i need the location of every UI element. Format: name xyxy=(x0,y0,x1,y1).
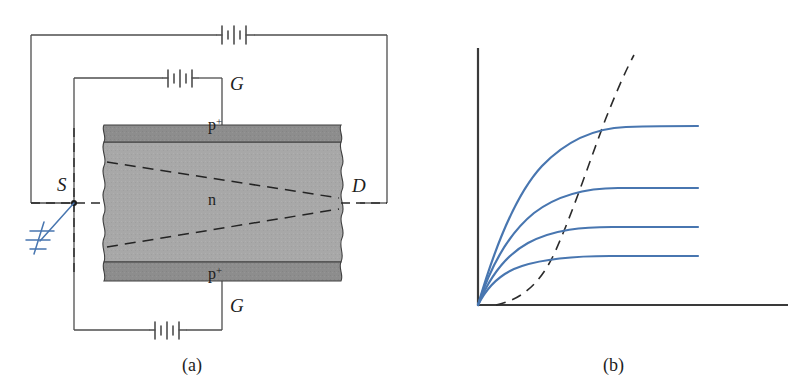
top-gate-battery-symbol xyxy=(163,70,198,87)
bottom-p-plus-letter: p xyxy=(208,265,216,282)
n-channel-label: n xyxy=(208,192,216,208)
bottom-p-plus-superscript: + xyxy=(216,264,222,276)
curve-vg-minus-1 xyxy=(478,188,698,305)
panel-a-device-diagram: S D G G p+ p+ n xyxy=(0,0,410,390)
figure-container: S D G G p+ p+ n ID VD 夾止 xyxy=(0,0,805,390)
drain-battery-symbol xyxy=(217,26,254,44)
panel-a-caption: (a) xyxy=(182,355,202,376)
top-p-plus-letter: p xyxy=(208,116,216,133)
source-label: S xyxy=(57,175,67,194)
curve-vg-0 xyxy=(478,126,698,305)
top-p-plus-label: p+ xyxy=(208,116,222,133)
ground-symbol xyxy=(26,203,74,254)
drain-label: D xyxy=(352,176,366,195)
gate-top-label: G xyxy=(230,74,244,93)
iv-chart-svg xyxy=(410,0,805,390)
top-p-plus-layer xyxy=(103,125,342,142)
bottom-gate-battery-symbol xyxy=(150,322,186,339)
panel-b-caption: (b) xyxy=(603,355,624,376)
chart-axes xyxy=(478,48,788,305)
panel-b-iv-chart: ID VD 夾止 V_G=0 V −1 −2 −3 xyxy=(410,0,805,390)
gate-bottom-label: G xyxy=(230,296,244,315)
iv-curves xyxy=(478,126,698,305)
curve-vg-minus-3 xyxy=(478,256,698,305)
top-p-plus-superscript: + xyxy=(216,115,222,127)
device-diagram-svg xyxy=(0,0,410,390)
bottom-p-plus-layer xyxy=(103,262,342,281)
n-region-body xyxy=(103,142,343,262)
semiconductor-bar xyxy=(103,125,343,281)
bottom-p-plus-label: p+ xyxy=(208,265,222,282)
ground-leader-line xyxy=(40,203,74,241)
